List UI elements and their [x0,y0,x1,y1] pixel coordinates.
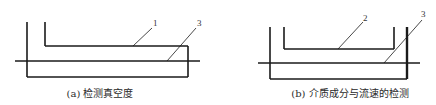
panel-b-caption: (b) 介质成分与流速的检测 [291,85,408,100]
panel-b-label-2: 2 [363,13,368,23]
panel-b-label-3: 3 [421,9,426,19]
panel-a-drawing [15,22,200,77]
panel-a-label-1: 1 [153,18,158,28]
panel-a-leader-1 [133,28,152,46]
panel-b-drawing [258,20,422,79]
panel-b-leader-3 [384,20,422,63]
panel-b-leader-2 [338,22,363,49]
panel-a-label-3: 3 [197,18,202,28]
panel-a-leader-3 [167,28,196,61]
panel-a-caption: (a) 检测真空度 [67,85,134,100]
